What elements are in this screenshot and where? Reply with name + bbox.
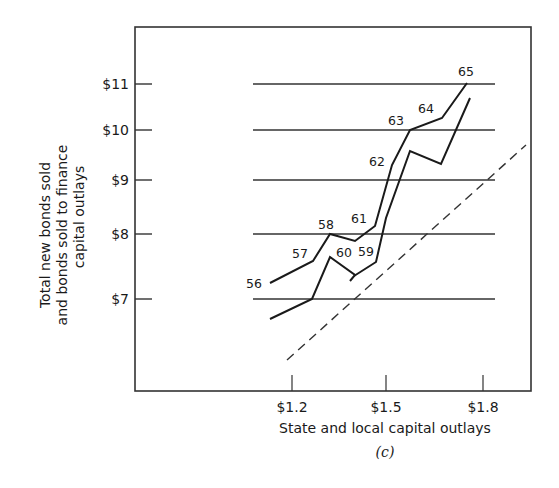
- point-label: 64: [418, 101, 434, 116]
- x-tick-label: $1.2: [276, 399, 307, 415]
- point-label: 60: [336, 245, 352, 260]
- point-label: 61: [351, 211, 367, 226]
- plot-frame: [135, 27, 531, 391]
- point-label: 57: [292, 246, 308, 261]
- x-axis-title: State and local capital outlays: [279, 420, 491, 436]
- svg-text:Total new bonds sold: Total new bonds sold: [37, 162, 53, 309]
- x-ticks: [292, 375, 483, 391]
- y-axis-title: Total new bonds sold and bonds sold to f…: [37, 145, 87, 326]
- figure-caption: (c): [376, 444, 395, 460]
- gridlines: [135, 84, 495, 299]
- y-tick-label: $9: [111, 172, 129, 188]
- point-label: 58: [318, 217, 334, 232]
- point-label: 62: [369, 154, 385, 169]
- reference-dashed-line: [287, 145, 526, 360]
- y-tick-label: $11: [102, 76, 129, 92]
- series-capital-bonds-line: [270, 257, 355, 319]
- point-label: 59: [358, 244, 374, 259]
- point-label: 65: [458, 64, 474, 79]
- x-tick-label: $1.8: [467, 399, 498, 415]
- y-tick-label: $10: [102, 122, 129, 138]
- y-tick-label: $7: [111, 291, 129, 307]
- point-label: 63: [388, 113, 404, 128]
- point-label: 56: [246, 276, 262, 291]
- svg-text:capital outlays: capital outlays: [71, 166, 87, 268]
- y-tick-label: $8: [111, 226, 129, 242]
- chart: $11 $10 $9 $8 $7 $1.2 $1.5 $1.8 State an…: [0, 0, 559, 488]
- svg-text:and bonds sold to finance: and bonds sold to finance: [54, 145, 70, 326]
- x-tick-label: $1.5: [370, 399, 401, 415]
